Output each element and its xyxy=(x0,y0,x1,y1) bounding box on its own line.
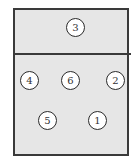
position-1: 1 xyxy=(88,111,107,130)
position-5: 5 xyxy=(38,111,57,130)
position-6: 6 xyxy=(61,71,80,90)
position-4: 4 xyxy=(20,71,39,90)
position-3: 3 xyxy=(66,18,85,37)
position-2: 2 xyxy=(106,71,125,90)
net-line xyxy=(13,53,131,55)
